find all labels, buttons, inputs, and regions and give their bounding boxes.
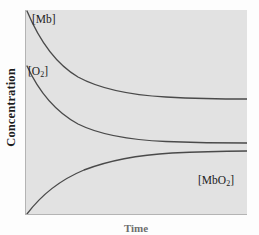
curve-mb [27, 11, 247, 99]
series-label-mbo2-suffix: ] [230, 174, 234, 186]
series-label-o2-suffix: ] [44, 65, 48, 77]
y-axis-label-text: Concentration [4, 68, 19, 146]
curve-o2 [27, 66, 247, 143]
series-label-o2: [O2] [28, 66, 48, 78]
chart-figure: Concentration [Mb] [O2] [MbO2] Time [0, 0, 259, 235]
plot-area: [Mb] [O2] [MbO2] [25, 10, 247, 215]
series-label-mbo2-prefix: [MbO [198, 174, 226, 186]
x-axis-label: Time [25, 222, 247, 235]
series-label-o2-subscript: 2 [40, 70, 44, 79]
y-axis-label: Concentration [0, 0, 22, 215]
series-label-o2-prefix: [O [28, 65, 40, 77]
series-label-mbo2-subscript: 2 [226, 179, 230, 188]
x-axis-label-text: Time [124, 222, 148, 234]
series-label-mb: [Mb] [32, 14, 56, 26]
series-label-mb-text: [Mb] [32, 13, 56, 25]
series-label-mbo2: [MbO2] [198, 175, 234, 187]
